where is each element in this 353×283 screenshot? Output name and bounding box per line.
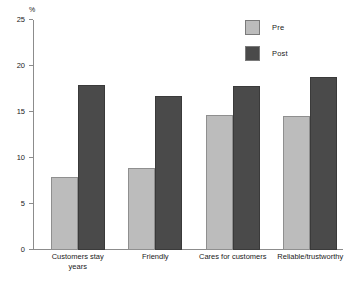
category-label: Reliable/trustworthy <box>277 252 343 262</box>
category-label: Friendly <box>142 252 169 262</box>
category-label: Cares for customers <box>199 252 267 262</box>
category-label: Customers stay years <box>52 252 104 271</box>
bar-post-2 <box>233 86 260 250</box>
y-tick-label: 15 <box>17 107 25 116</box>
bar-pre-0 <box>51 177 78 250</box>
y-tick-label: 0 <box>21 245 25 254</box>
bar-post-3 <box>310 77 337 250</box>
bar-pre-1 <box>128 168 155 250</box>
y-tick-label: 5 <box>21 199 25 208</box>
bar-post-1 <box>155 96 182 250</box>
y-tick-label: 10 <box>17 153 25 162</box>
y-tick-label: 25 <box>17 15 25 24</box>
bar-post-0 <box>78 85 105 250</box>
bar-pre-3 <box>283 116 310 250</box>
y-tick-label: 20 <box>17 61 25 70</box>
y-axis-unit-label: % <box>29 6 35 13</box>
x-axis-category-labels: Customers stay yearsFriendlyCares for cu… <box>33 252 343 283</box>
bars-layer <box>33 20 343 250</box>
plot-area: 0510152025 <box>33 20 343 250</box>
bar-chart: % Pre Post 0510152025 Customers stay yea… <box>0 0 353 283</box>
bar-pre-2 <box>206 115 233 250</box>
